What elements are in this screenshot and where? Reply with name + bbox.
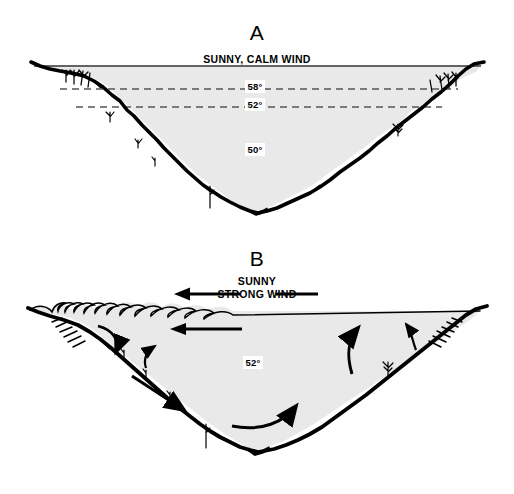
temperature-label-58: 58° [245,80,265,93]
panel-a-basin-drawing [0,0,514,248]
wind-arrow-head [174,288,190,301]
temperature-label-52-panel-b: 52° [243,356,263,369]
lake-stratification-figure: A SUNNY, CALM WIND [0,0,514,494]
panel-b: B SUNNY STRONG WIND [0,246,514,494]
panel-a: A SUNNY, CALM WIND [0,0,514,248]
submerged-plant-bottom [206,186,214,208]
panel-b-basin-drawing [0,246,514,494]
temperature-label-52: 52° [245,98,265,111]
temperature-label-50: 50° [245,143,265,156]
